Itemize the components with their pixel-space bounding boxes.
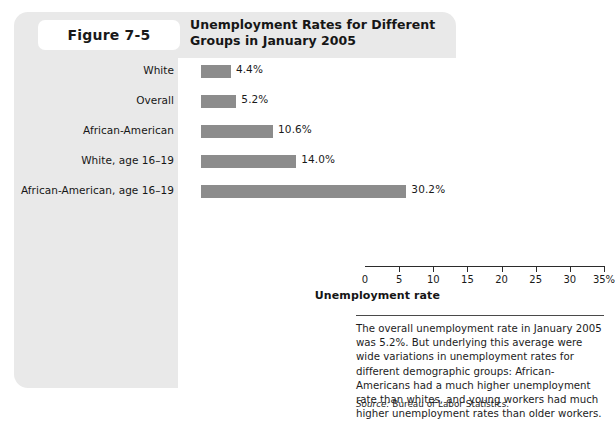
x-axis-tick xyxy=(433,266,434,272)
bar-row: 30.2% xyxy=(192,178,442,208)
bar xyxy=(201,95,236,108)
x-axis-tick xyxy=(604,266,605,272)
x-axis-tick-label: 5 xyxy=(396,274,402,285)
x-axis-tick xyxy=(467,266,468,272)
bar-value-label: 5.2% xyxy=(241,93,268,105)
bar xyxy=(201,125,273,138)
x-axis-tick xyxy=(570,266,571,272)
figure-label-box: Figure 7-5 xyxy=(38,20,180,50)
category-label: White xyxy=(143,64,174,76)
caption-source: Source: Bureau of Labor Statistics. xyxy=(356,399,606,409)
figure-title: Unemployment Rates for Different Groups … xyxy=(190,17,448,49)
bar xyxy=(201,65,231,78)
figure-header: Figure 7-5 Unemployment Rates for Differ… xyxy=(14,12,456,60)
x-axis-tick-label: 0 xyxy=(362,274,368,285)
x-axis-tick-label: 35% xyxy=(593,274,615,285)
bar-value-label: 10.6% xyxy=(278,123,312,135)
caption-divider xyxy=(356,315,604,316)
x-axis-tick-label: 20 xyxy=(495,274,508,285)
bar-row: 5.2% xyxy=(192,88,442,118)
x-axis-tick xyxy=(536,266,537,272)
x-axis-tick-label: 30 xyxy=(563,274,576,285)
bar xyxy=(201,155,296,168)
chart-plot-area: 4.4%5.2%10.6%14.0%30.2% xyxy=(192,58,442,254)
caption-source-text: Bureau of Labor Statistics. xyxy=(392,399,509,409)
bar-value-label: 14.0% xyxy=(301,153,335,165)
x-axis-line xyxy=(365,266,604,267)
category-label: Overall xyxy=(136,94,174,106)
x-axis-tick-label: 25 xyxy=(529,274,542,285)
figure-card: Figure 7-5 Unemployment Rates for Differ… xyxy=(14,12,456,388)
x-axis-tick-label: 10 xyxy=(427,274,440,285)
chart-panel: 4.4%5.2%10.6%14.0%30.2% Unemployment rat… xyxy=(178,58,456,388)
x-axis-tick xyxy=(399,266,400,272)
category-label: African-American, age 16–19 xyxy=(21,184,174,196)
bar-row: 4.4% xyxy=(192,58,442,88)
x-axis-tick-label: 15 xyxy=(461,274,474,285)
figure-label: Figure 7-5 xyxy=(38,20,180,50)
category-label: White, age 16–19 xyxy=(81,154,174,166)
bar-row: 10.6% xyxy=(192,118,442,148)
bar-row: 14.0% xyxy=(192,148,442,178)
x-axis-title: Unemployment rate xyxy=(315,289,440,302)
bar-value-label: 30.2% xyxy=(411,183,445,195)
x-axis-tick xyxy=(502,266,503,272)
caption-source-label: Source: xyxy=(356,399,390,409)
bar xyxy=(201,185,406,198)
category-label-column: WhiteOverallAfrican-AmericanWhite, age 1… xyxy=(14,58,174,218)
category-label: African-American xyxy=(83,124,174,136)
bar-value-label: 4.4% xyxy=(236,63,263,75)
